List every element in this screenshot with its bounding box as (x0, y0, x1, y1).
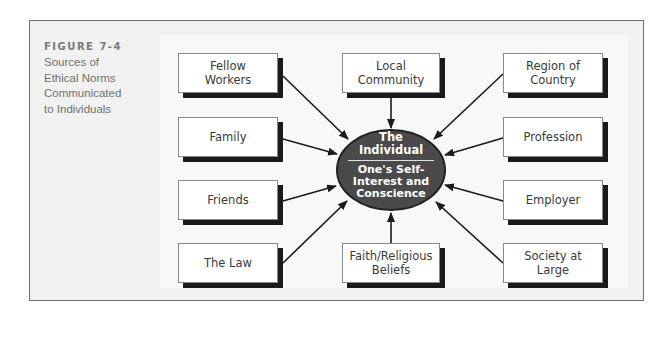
source-box-employer: Employer (503, 180, 603, 220)
source-label: Family (209, 130, 246, 144)
source-box-profession: Profession (503, 117, 603, 157)
source-label: Fellow Workers (205, 59, 252, 87)
source-label: Region of Country (526, 59, 580, 87)
arrow-the-law (283, 201, 347, 263)
source-label: Local Community (358, 59, 425, 87)
arrow-region (434, 74, 503, 139)
source-box-society-at-large: Society at Large (503, 243, 603, 283)
source-box-fellow-workers: Fellow Workers (178, 53, 278, 93)
source-label: Faith/Religious Beliefs (349, 249, 432, 277)
center-title-line: The (338, 131, 444, 144)
center-title-line: Individual (338, 144, 444, 157)
source-box-faith-religious-beliefs: Faith/Religious Beliefs (342, 243, 440, 283)
source-label: Profession (524, 130, 583, 144)
source-box-family: Family (178, 117, 278, 157)
source-box-local-community: Local Community (342, 53, 440, 93)
diagram-arrows (0, 0, 672, 341)
arrow-friends (283, 186, 336, 201)
source-box-friends: Friends (178, 180, 278, 220)
arrow-society (436, 202, 503, 263)
arrow-family (283, 139, 337, 154)
source-label: The Law (204, 256, 252, 270)
center-subtitle-line: Conscience (338, 188, 444, 200)
source-label: Employer (526, 193, 581, 207)
center-individual: The Individual One's Self- Interest and … (338, 131, 444, 200)
arrow-employer (445, 185, 503, 201)
arrow-fellow-workers (283, 76, 348, 139)
source-box-region-of-country: Region of Country (503, 53, 603, 93)
arrow-profession (445, 138, 503, 155)
source-label: Friends (207, 193, 248, 207)
source-label: Society at Large (524, 249, 581, 277)
source-box-the-law: The Law (178, 243, 278, 283)
center-divider (348, 160, 434, 161)
